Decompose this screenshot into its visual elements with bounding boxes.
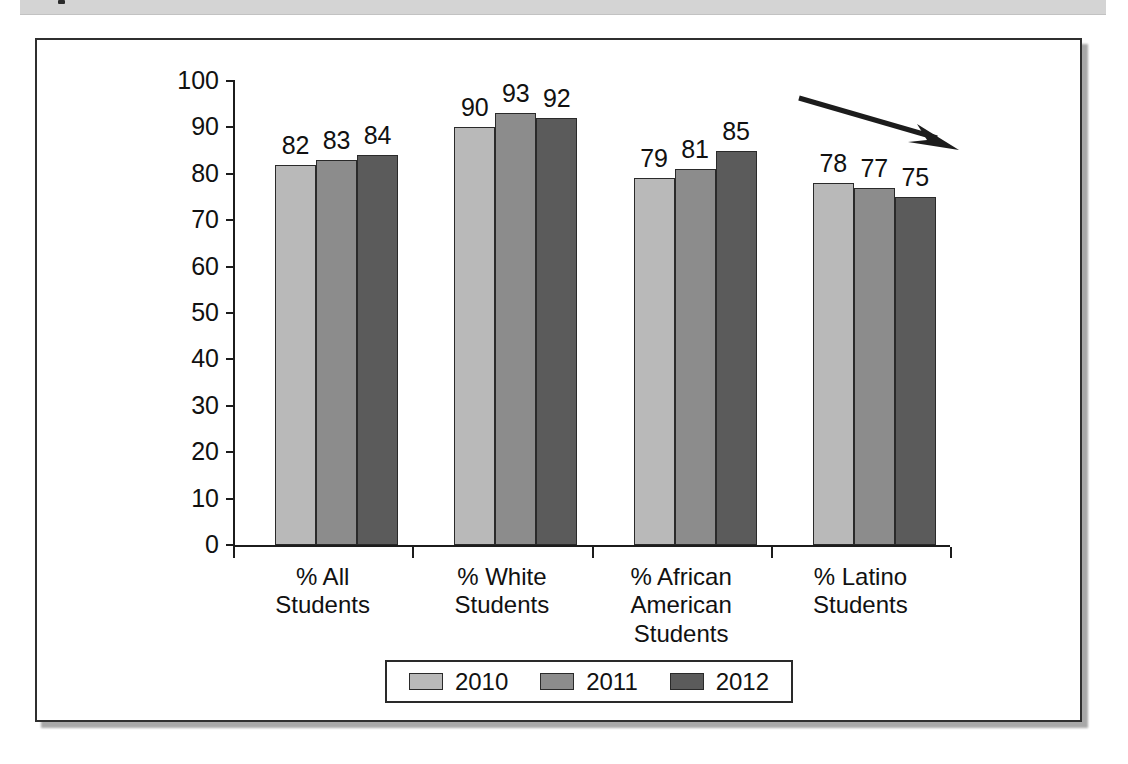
chart-figure-frame: 1009080706050403020100 82838490939279818… xyxy=(35,38,1082,722)
bar-value-2012-group-1: 84 xyxy=(355,123,401,148)
legend-swatch-2011 xyxy=(540,673,574,690)
bar-2012-group-3[interactable] xyxy=(716,151,757,545)
x-tick-4 xyxy=(950,547,952,558)
category-label-1: % AllStudents xyxy=(228,563,418,620)
bar-value-2011-group-2: 93 xyxy=(493,81,539,106)
legend-item-2011[interactable]: 2011 xyxy=(540,670,638,694)
bar-2011-group-1[interactable] xyxy=(316,160,357,545)
bar-value-2012-group-3: 85 xyxy=(713,119,759,144)
bar-value-2010-group-4: 78 xyxy=(810,151,856,176)
bar-chart-plot: 1009080706050403020100 82838490939279818… xyxy=(37,40,1084,724)
bar-value-2012-group-2: 92 xyxy=(534,86,580,111)
category-label-2: % WhiteStudents xyxy=(407,563,597,620)
category-label-line: Students xyxy=(586,620,776,648)
bar-2011-group-3[interactable] xyxy=(675,169,716,545)
bar-value-2010-group-3: 79 xyxy=(631,146,677,171)
x-tick-2 xyxy=(592,547,594,558)
legend-swatch-2010 xyxy=(409,673,443,690)
x-tick-3 xyxy=(771,547,773,558)
category-label-line: % African xyxy=(586,563,776,591)
bar-2012-group-2[interactable] xyxy=(536,118,577,545)
legend-swatch-2012 xyxy=(670,673,704,690)
category-label-3: % AfricanAmericanStudents xyxy=(586,563,776,648)
bar-2011-group-4[interactable] xyxy=(854,188,895,545)
legend-item-2010[interactable]: 2010 xyxy=(409,670,508,694)
category-label-line: % White xyxy=(407,563,597,591)
scan-header-band xyxy=(20,0,1106,15)
bar-2010-group-3[interactable] xyxy=(634,178,675,545)
category-label-line: American xyxy=(586,591,776,619)
x-tick-1 xyxy=(412,547,414,558)
bar-2010-group-2[interactable] xyxy=(454,127,495,545)
category-label-line: % All xyxy=(228,563,418,591)
downward-trend-arrow-icon xyxy=(777,80,967,150)
category-label-line: Students xyxy=(765,591,955,619)
legend-label-2011: 2011 xyxy=(586,670,638,694)
category-label-line: Students xyxy=(407,591,597,619)
scan-header-mark xyxy=(58,0,65,4)
category-label-line: Students xyxy=(228,591,418,619)
bar-2012-group-4[interactable] xyxy=(895,197,936,545)
legend-item-2012[interactable]: 2012 xyxy=(670,670,769,694)
bar-value-2010-group-2: 90 xyxy=(452,95,498,120)
category-label-line: % Latino xyxy=(765,563,955,591)
bar-2012-group-1[interactable] xyxy=(357,155,398,545)
legend-label-2010: 2010 xyxy=(455,670,508,694)
bar-value-2010-group-1: 82 xyxy=(273,133,319,158)
chart-legend: 2010 2011 2012 xyxy=(385,660,793,703)
bar-value-2012-group-4: 75 xyxy=(892,165,938,190)
bar-2011-group-2[interactable] xyxy=(495,113,536,545)
category-label-4: % LatinoStudents xyxy=(765,563,955,620)
bar-value-2011-group-3: 81 xyxy=(672,137,718,162)
bar-value-2011-group-1: 83 xyxy=(314,128,360,153)
bar-value-2011-group-4: 77 xyxy=(851,156,897,181)
bar-2010-group-1[interactable] xyxy=(275,165,316,545)
bar-2010-group-4[interactable] xyxy=(813,183,854,545)
legend-label-2012: 2012 xyxy=(716,670,769,694)
x-tick-origin xyxy=(233,547,235,558)
